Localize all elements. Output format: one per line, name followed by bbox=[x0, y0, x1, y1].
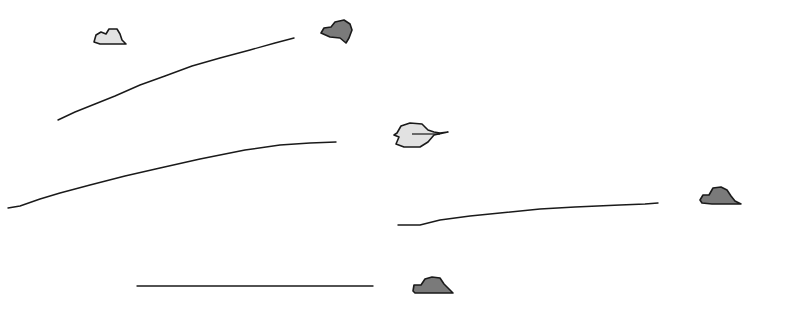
blob-5-shape bbox=[413, 277, 453, 293]
line-2 bbox=[8, 142, 336, 208]
line-3 bbox=[398, 203, 658, 225]
blob-4-shape bbox=[700, 187, 741, 204]
blob-3-shape bbox=[394, 123, 448, 147]
blob-1-shape bbox=[94, 29, 126, 44]
lines-group bbox=[8, 38, 658, 286]
blob-2-shape bbox=[321, 20, 352, 43]
drawing-svg bbox=[0, 0, 785, 311]
diagram-canvas bbox=[0, 0, 785, 311]
line-1 bbox=[58, 38, 294, 120]
shapes-group bbox=[94, 20, 741, 293]
